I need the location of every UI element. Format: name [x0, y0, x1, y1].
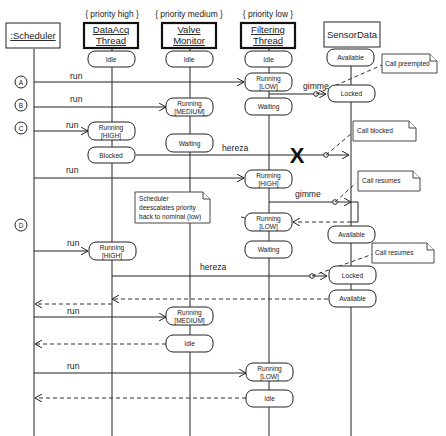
svg-text:C: C	[19, 125, 24, 132]
state-filtering-running-high: Running[HIGH]	[245, 170, 292, 188]
state-dataacq-idle: Idle	[88, 51, 135, 67]
svg-text:Available: Available	[339, 295, 366, 302]
svg-text:[MEDIUM]: [MEDIUM]	[174, 317, 205, 325]
state-filtering-running-low-2: Running[LOW]	[245, 213, 292, 231]
hereza-label-2: hereza	[200, 262, 226, 272]
state-valve-idle-2: Idle	[166, 335, 213, 352]
dataacq-label-2: Thread	[96, 35, 126, 46]
scheduler-label: :Scheduler	[10, 30, 55, 41]
state-valve-running-medium-1: Running[MEDIUM]	[166, 98, 213, 116]
run-label-c: run	[66, 120, 79, 130]
state-sensordata-locked-1: Locked	[328, 85, 375, 102]
header-dataacq: { priority high } DataAcq Thread	[84, 9, 139, 48]
valve-label-2: Monitor	[173, 35, 205, 46]
note-call-blocked: Call blocked	[353, 121, 416, 141]
header-scheduler: :Scheduler	[6, 23, 60, 48]
svg-text:Idle: Idle	[263, 56, 274, 63]
note-call-resumes-1: Call resumes	[358, 171, 420, 191]
priority-high-label: { priority high }	[85, 9, 139, 19]
svg-text:Call resumes: Call resumes	[362, 177, 401, 184]
header-valve: { priority medium } Valve Monitor	[155, 9, 223, 48]
header-sensordata: SensorData	[324, 22, 380, 47]
state-filtering-running-low-1: Running[LOW]	[245, 73, 292, 91]
svg-text:deescalates priority: deescalates priority	[139, 204, 197, 212]
svg-text:B: B	[19, 102, 23, 109]
svg-text:Idle: Idle	[106, 56, 117, 63]
state-valve-waiting: Waiting	[166, 134, 213, 152]
state-valve-idle-1: Idle	[166, 51, 213, 67]
gimme-label-2: gimme	[295, 189, 321, 199]
header-filtering: { priority low } Filtering Thread	[241, 9, 295, 48]
svg-text:[LOW]: [LOW]	[259, 223, 278, 231]
svg-text:Idle: Idle	[184, 56, 195, 63]
state-filtering-idle-1: Idle	[245, 51, 292, 67]
marker-c: C	[15, 122, 27, 134]
state-filtering-idle-2: Idle	[246, 390, 293, 407]
state-dataacq-running-high-1: Running[HIGH]	[88, 122, 135, 140]
svg-text:Locked: Locked	[342, 272, 364, 279]
run-label-4: run	[66, 165, 79, 175]
svg-text:Scheduler: Scheduler	[139, 195, 169, 202]
svg-text:Idle: Idle	[184, 340, 195, 347]
svg-text:[HIGH]: [HIGH]	[102, 252, 122, 260]
svg-text:Waiting: Waiting	[179, 140, 201, 148]
valve-label-1: Valve	[177, 24, 200, 35]
marker-a: A	[15, 76, 27, 88]
svg-text:Call resumes: Call resumes	[375, 249, 414, 256]
hereza-label-1: hereza	[222, 143, 248, 153]
sequence-diagram: :Scheduler { priority high } DataAcq Thr…	[0, 0, 446, 436]
state-filtering-running-low-3: Running[LOW]	[246, 363, 293, 381]
svg-text:[HIGH]: [HIGH]	[258, 180, 278, 188]
svg-text:[HIGH]: [HIGH]	[101, 132, 121, 140]
priority-low-label: { priority low }	[243, 9, 293, 19]
state-sensordata-available-1: Available	[327, 49, 374, 66]
marker-d: D	[15, 219, 27, 231]
svg-text:Waiting: Waiting	[258, 246, 280, 254]
svg-text:Call preempted: Call preempted	[385, 60, 430, 68]
destroy-x-icon: X	[290, 143, 305, 168]
self-loop	[351, 202, 358, 222]
priority-medium-label: { priority medium }	[155, 9, 223, 19]
run-label-6: run	[67, 306, 80, 316]
state-filtering-waiting-1: Waiting	[245, 98, 292, 115]
state-sensordata-available-2: Available	[328, 226, 375, 243]
svg-text:Waiting: Waiting	[258, 103, 280, 111]
svg-text:Available: Available	[338, 231, 365, 238]
state-dataacq-running-high-2: Running[HIGH]	[89, 242, 136, 260]
filtering-label-2: Thread	[253, 35, 283, 46]
svg-text:Available: Available	[337, 54, 364, 61]
run-label-d: run	[67, 238, 80, 248]
sensordata-label: SensorData	[327, 29, 378, 40]
svg-text:[LOW]: [LOW]	[259, 83, 278, 91]
note-connector-resumes-1	[335, 183, 356, 202]
state-dataacq-blocked: Blocked	[88, 147, 135, 163]
svg-text:back to nominal (low): back to nominal (low)	[139, 213, 201, 221]
run-label-7: run	[67, 361, 80, 371]
note-call-preempted: Call preempted	[382, 54, 437, 73]
svg-text:Locked: Locked	[341, 90, 363, 97]
svg-text:[MEDIUM]: [MEDIUM]	[174, 108, 205, 116]
note-connector-blocked	[326, 133, 352, 155]
svg-text:Call blocked: Call blocked	[357, 127, 393, 134]
state-valve-running-medium-2: Running[MEDIUM]	[166, 307, 213, 325]
state-sensordata-available-3: Available	[329, 290, 376, 307]
marker-b: B	[15, 99, 27, 111]
run-label-a: run	[70, 71, 83, 81]
state-filtering-waiting-2: Waiting	[245, 241, 292, 258]
filtering-label-1: Filtering	[251, 24, 285, 35]
svg-text:A: A	[19, 79, 24, 86]
svg-text:Blocked: Blocked	[99, 152, 123, 159]
dataacq-label-1: DataAcq	[93, 24, 129, 35]
svg-text:[LOW]: [LOW]	[260, 373, 279, 381]
note-scheduler-deescalates: Scheduler deescalates priority back to n…	[135, 192, 210, 223]
svg-text:Idle: Idle	[264, 395, 275, 402]
run-label-b: run	[70, 94, 83, 104]
state-sensordata-locked-2: Locked	[329, 266, 376, 284]
note-call-resumes-2: Call resumes	[372, 243, 434, 263]
svg-text:D: D	[19, 222, 24, 229]
